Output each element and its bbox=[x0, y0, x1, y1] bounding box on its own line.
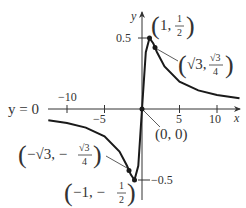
inflection-left-point bbox=[127, 168, 132, 173]
svg-text:2: 2 bbox=[177, 27, 182, 38]
label-max: ( 1, 1 2 ) bbox=[151, 11, 195, 40]
svg-text:−√3, −: −√3, − bbox=[27, 146, 67, 162]
svg-text:4: 4 bbox=[82, 156, 87, 167]
svg-text:√3: √3 bbox=[79, 142, 90, 153]
svg-text:1: 1 bbox=[177, 13, 182, 24]
x-tick-label-10: 10 bbox=[209, 112, 221, 126]
x-tick-label-5: 5 bbox=[176, 112, 182, 126]
function-graph: −10 −5 5 10 x y 0.5 −0.5 y = 0 ( 1, 1 2 … bbox=[0, 0, 246, 208]
y-axis-label: y bbox=[130, 9, 137, 23]
svg-text:): ) bbox=[93, 140, 102, 169]
svg-text:4: 4 bbox=[213, 66, 218, 77]
label-inflection-right: ( √3, √3 4 ) bbox=[178, 50, 234, 79]
svg-text:1: 1 bbox=[119, 180, 124, 191]
asymptote-label: y = 0 bbox=[8, 101, 39, 117]
x-axis-label: x bbox=[233, 111, 240, 125]
leader-origin bbox=[144, 111, 160, 127]
label-inflection-left: ( −√3, − √3 4 ) bbox=[18, 140, 102, 169]
svg-text:(: ( bbox=[178, 50, 187, 79]
svg-text:2: 2 bbox=[119, 194, 124, 205]
svg-text:): ) bbox=[127, 178, 136, 207]
svg-text:): ) bbox=[186, 11, 195, 40]
x-tick-label-neg5: −5 bbox=[93, 112, 106, 126]
origin-point bbox=[140, 107, 145, 112]
svg-text:√3,: √3, bbox=[187, 56, 206, 72]
label-min: ( −1, − 1 2 ) bbox=[64, 178, 136, 207]
y-tick-label-neg0.5: −0.5 bbox=[151, 173, 173, 187]
svg-text:−1, −: −1, − bbox=[73, 184, 105, 200]
svg-text:): ) bbox=[225, 50, 234, 79]
y-tick-label-0.5: 0.5 bbox=[116, 31, 131, 45]
svg-text:(: ( bbox=[151, 11, 160, 40]
inflection-right-point bbox=[153, 45, 158, 50]
svg-text:√3: √3 bbox=[210, 52, 221, 63]
label-origin: (0, 0) bbox=[155, 126, 188, 143]
svg-text:(: ( bbox=[18, 140, 27, 169]
svg-text:(: ( bbox=[64, 178, 73, 207]
svg-text:1,: 1, bbox=[160, 17, 171, 33]
x-tick-label-neg10: −10 bbox=[58, 90, 77, 104]
